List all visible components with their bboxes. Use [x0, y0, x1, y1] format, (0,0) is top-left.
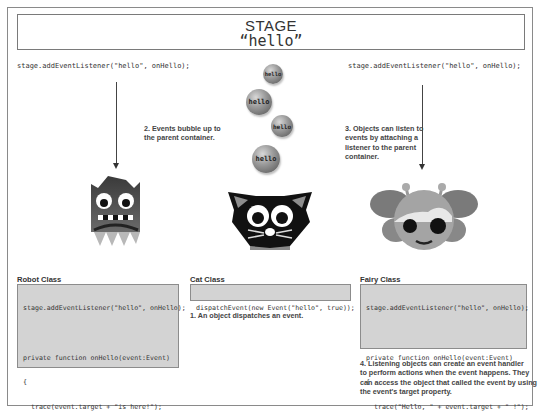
- note-line: to perform actions when the event happen…: [360, 368, 537, 377]
- event-ball-label: hello: [265, 71, 282, 77]
- code-line: stage.addEventListener("hello", onHello)…: [366, 304, 521, 312]
- code-line: trace("Hello, " + event.target + " !");: [366, 403, 521, 411]
- note-line: can access the object that called the ev…: [360, 378, 537, 387]
- code-line: [23, 329, 173, 337]
- note-step-1: 1. An object dispatches an event.: [190, 311, 303, 320]
- event-ball-label: hello: [273, 123, 291, 130]
- code-line: {: [23, 378, 173, 386]
- event-ball-label: hello: [255, 155, 276, 163]
- robot-monster-icon: [86, 174, 144, 248]
- robot-code-box: stage.addEventListener("hello", onHello)…: [17, 284, 179, 368]
- event-ball-label: hello: [248, 98, 269, 106]
- stage-box: STAGE “hello”: [17, 14, 525, 50]
- code-line: trace(event.target + "is here!");: [23, 403, 173, 411]
- right-arrowhead-icon: [419, 164, 425, 170]
- note-line: events by attaching a: [345, 133, 423, 142]
- cat-class-label: Cat Class: [190, 275, 225, 284]
- note-line: listener to the parent: [345, 143, 423, 152]
- stage-event-name: “hello”: [18, 32, 524, 50]
- note-line: 4. Listening objects can create an event…: [360, 359, 537, 368]
- event-ball-1: hello: [263, 64, 283, 84]
- fairy-icon: [368, 182, 480, 254]
- note-line: the event's target property.: [360, 387, 537, 396]
- left-arrow-line: [116, 82, 117, 164]
- note-step-2: 2. Events bubble up to the parent contai…: [144, 124, 221, 143]
- event-ball-3: hello: [271, 115, 293, 137]
- robot-class-label: Robot Class: [17, 275, 61, 284]
- code-line: private function onHello(event:Event): [23, 354, 173, 362]
- cat-icon: [226, 188, 314, 252]
- code-line: stage.addEventListener("hello", onHello)…: [23, 304, 173, 312]
- cat-code-box: dispatchEvent(new Event("hello", true));: [190, 284, 351, 301]
- note-line: container.: [345, 152, 423, 161]
- fairy-code-box: stage.addEventListener("hello", onHello)…: [360, 284, 527, 349]
- code-line: [366, 329, 521, 337]
- right-listener-code: stage.addEventListener("hello", onHello)…: [348, 62, 521, 70]
- note-line: 2. Events bubble up to: [144, 124, 221, 133]
- left-listener-code: stage.addEventListener("hello", onHello)…: [17, 62, 190, 70]
- note-line: the parent container.: [144, 133, 221, 142]
- event-ball-4: hello: [252, 145, 280, 173]
- note-step-4: 4. Listening objects can create an event…: [360, 359, 537, 396]
- left-arrowhead-icon: [113, 163, 119, 169]
- fairy-class-label: Fairy Class: [360, 275, 401, 284]
- note-line: 3. Objects can listen to: [345, 124, 423, 133]
- event-ball-2: hello: [246, 89, 272, 115]
- note-step-3: 3. Objects can listen to events by attac…: [345, 124, 423, 161]
